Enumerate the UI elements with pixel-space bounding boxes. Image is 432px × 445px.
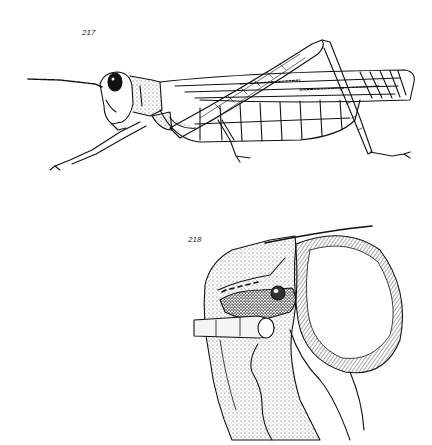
illustration-plate [0,0,432,445]
grasshopper-drawing [28,40,414,170]
head-detail-drawing [194,226,403,440]
